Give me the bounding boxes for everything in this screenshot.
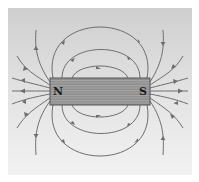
field-line-outer-bottom: [52, 105, 148, 156]
north-pole-label: N: [53, 85, 63, 98]
field-line-right-6: [150, 98, 183, 128]
field-line-left-3: [12, 78, 50, 88]
field-line-left-7: [36, 101, 50, 155]
field-line-inner-top: [72, 66, 128, 78]
field-line-left-6: [17, 98, 50, 128]
field-line-left-1: [36, 30, 50, 82]
field-line-right-5: [150, 94, 188, 104]
field-line-middle-top: [62, 50, 140, 79]
bar-magnet: [50, 78, 150, 105]
field-lines-diagram: [0, 0, 199, 182]
field-line-right-7: [150, 101, 163, 155]
field-line-outer-top: [52, 27, 148, 78]
field-line-left-5: [12, 94, 50, 104]
south-pole-label: S: [139, 85, 147, 98]
field-line-middle-bottom: [62, 105, 140, 134]
field-line-right-3: [150, 78, 188, 88]
field-line-right-1: [150, 30, 163, 82]
